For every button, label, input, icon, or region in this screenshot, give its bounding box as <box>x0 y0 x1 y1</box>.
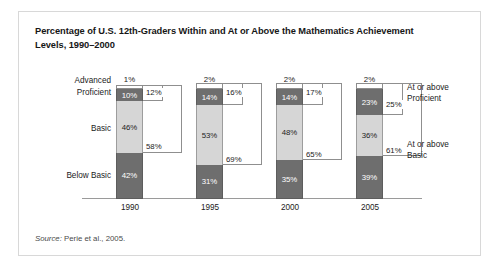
annotation-at-or-above-basic-line1: At or above <box>407 140 449 151</box>
source-citation: Perie et al., 2005. <box>62 234 125 243</box>
annotation-at-or-above-basic-line2: Basic <box>407 151 449 162</box>
segment-proficient-1990: 10% <box>116 89 143 101</box>
segment-basic-2005: 36% <box>356 115 383 156</box>
year-label-2005: 2005 <box>343 203 397 212</box>
year-label-2000: 2000 <box>263 203 317 212</box>
bracket-label-at-or-above-basic-1990: 58% <box>145 142 163 151</box>
segment-proficient-1995: 14% <box>196 89 223 105</box>
bracket-at-or-above-basic-2000 <box>303 83 342 160</box>
category-label-basic: Basic <box>91 124 111 133</box>
bracket-label-at-or-above-basic-2000: 65% <box>305 150 323 159</box>
annotation-at-or-above-proficient-line1: At or above <box>407 83 449 94</box>
year-label-1995: 1995 <box>183 203 237 212</box>
figure-frame: Percentage of U.S. 12th-Graders Within a… <box>18 11 481 256</box>
chart-plot-area: Advanced Proficient Basic Below Basic 1%… <box>19 12 482 257</box>
segment-proficient-2000: 14% <box>276 89 303 105</box>
segment-basic-1995: 53% <box>196 105 223 165</box>
category-label-below-basic: Below Basic <box>66 171 111 180</box>
bracket-at-or-above-basic-1995 <box>223 83 262 165</box>
annotation-at-or-above-basic: At or above Basic <box>407 140 449 161</box>
segment-proficient-2005: 23% <box>356 89 383 115</box>
segment-basic-1990: 46% <box>116 101 143 153</box>
category-label-proficient: Proficient <box>77 88 111 97</box>
segment-below-basic-1990: 42% <box>116 153 143 199</box>
segment-below-basic-2000: 35% <box>276 160 303 199</box>
annotation-at-or-above-proficient: At or above Proficient <box>407 83 449 104</box>
advanced-value-1990: 1% <box>116 75 143 84</box>
source-label: Source: <box>35 234 62 243</box>
segment-below-basic-2005: 39% <box>356 156 383 199</box>
annotation-at-or-above-proficient-line2: Proficient <box>407 94 449 105</box>
bracket-label-at-or-above-basic-2005: 61% <box>385 146 403 155</box>
source-note: Source: Perie et al., 2005. <box>35 234 125 243</box>
segment-below-basic-1995: 31% <box>196 165 223 199</box>
bracket-label-at-or-above-basic-1995: 69% <box>225 155 243 164</box>
year-label-1990: 1990 <box>103 203 157 212</box>
category-label-column: Advanced Proficient Basic Below Basic <box>19 12 111 257</box>
category-label-advanced: Advanced <box>75 76 111 85</box>
segment-basic-2000: 48% <box>276 105 303 160</box>
